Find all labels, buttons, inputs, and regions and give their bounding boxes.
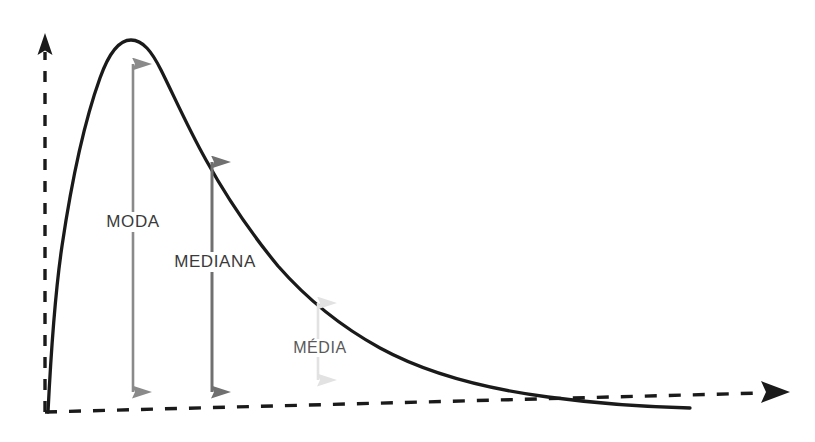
x-axis-arrowhead-icon (761, 381, 790, 403)
x-axis-line (45, 393, 762, 412)
distribution-curve (48, 40, 690, 412)
chart-svg-canvas (0, 0, 815, 442)
y-axis-arrowhead-icon (38, 33, 53, 55)
distribution-chart-figure: MODA MEDIANA MÉDIA (0, 0, 815, 442)
